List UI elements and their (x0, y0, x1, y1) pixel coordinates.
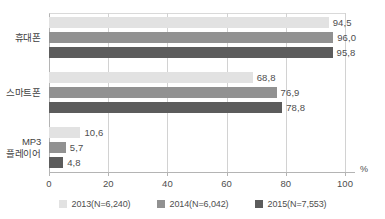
tick-mark (49, 172, 50, 176)
x-tick-label: 0 (46, 178, 51, 189)
category-label: MP3 플레이어 (6, 136, 41, 159)
bar-value-label: 78,8 (286, 102, 305, 113)
x-tick-label: 20 (103, 178, 114, 189)
bar-value-label: 5,7 (70, 142, 84, 153)
bar-value-label: 4,8 (67, 157, 81, 168)
legend-label: 2014(N=6,042) (170, 199, 229, 209)
legend-item[interactable]: 2015(N=7,553) (255, 199, 327, 209)
category-label: 휴대폰 (15, 32, 41, 44)
legend-label: 2015(N=7,553) (268, 199, 327, 209)
tick-mark (286, 172, 287, 176)
x-tick-label: 80 (281, 178, 292, 189)
bar (49, 17, 329, 28)
legend-swatch (59, 200, 67, 208)
legend-swatch (255, 200, 263, 208)
legend-item[interactable]: 2014(N=6,042) (157, 199, 229, 209)
x-tick-label: 40 (162, 178, 173, 189)
bar (49, 72, 253, 83)
category-label: 스마트폰 (6, 87, 41, 99)
tick-mark (345, 172, 346, 176)
bar-value-label: 94,5 (333, 17, 352, 28)
legend-label: 2013(N=6,240) (72, 199, 131, 209)
x-tick-label: 100 (337, 178, 353, 189)
bar-value-label: 95,8 (337, 47, 356, 58)
bar-value-label: 76,9 (281, 87, 300, 98)
bar (49, 87, 277, 98)
bar (49, 47, 333, 58)
bar-value-label: 68,8 (257, 72, 276, 83)
tick-mark (108, 172, 109, 176)
bar (49, 32, 333, 43)
axis-unit-label: % (360, 164, 368, 174)
tick-mark (167, 172, 168, 176)
legend: 2013(N=6,240)2014(N=6,042)2015(N=7,553) (0, 199, 385, 209)
bar-chart: 94,596,095,868,876,978,810,65,74,8 휴대폰스마… (0, 0, 385, 219)
bar-value-label: 10,6 (84, 127, 103, 138)
bar-value-label: 96,0 (337, 32, 356, 43)
bar (49, 142, 66, 153)
legend-swatch (157, 200, 165, 208)
bar (49, 127, 80, 138)
bar (49, 157, 63, 168)
bar (49, 102, 282, 113)
x-tick-label: 60 (221, 178, 232, 189)
tick-mark (227, 172, 228, 176)
legend-item[interactable]: 2013(N=6,240) (59, 199, 131, 209)
x-axis-line (49, 172, 355, 173)
